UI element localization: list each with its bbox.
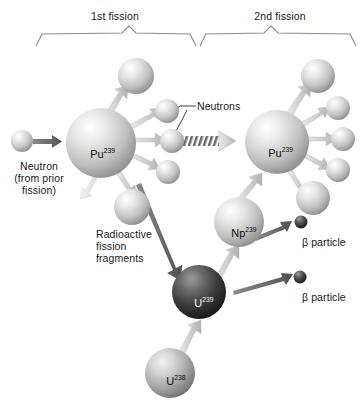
bracket-2nd-fission: [200, 26, 356, 46]
bracket-label-1st-fission: 1st fission: [80, 10, 150, 23]
nuclide-label-u238: U238: [154, 363, 186, 399]
arrow-beta-2: [233, 273, 293, 295]
label-fission-fragments-line3: fragments: [96, 252, 144, 265]
arrow-incoming-neutron: [33, 135, 62, 148]
nuclide-label-u239: U239: [182, 285, 214, 321]
sphere-beta-particle-1: [295, 216, 308, 229]
nuclide-mass-pu239-right: 239: [282, 146, 293, 153]
nuclide-mass-pu239-left: 239: [104, 147, 115, 154]
nuclide-element-u239: U: [194, 297, 202, 309]
sphere-neutron-right-2: [331, 127, 355, 151]
bracket-1st-fission: [36, 26, 196, 46]
nuclide-label-pu239-left: Pu239: [78, 136, 115, 172]
sphere-beta-particle-2: [294, 271, 307, 284]
sphere-neutron-left-2: [160, 129, 184, 153]
diagram-canvas: [0, 0, 363, 415]
bracket-label-2nd-fission: 2nd fission: [243, 10, 317, 23]
sphere-neutron-right-1: [326, 96, 350, 120]
sphere-fragment-left-bottom: [114, 189, 150, 225]
label-beta-particle-2: β particle: [302, 291, 346, 304]
fission-chain-diagram: 1st fission 2nd fission Neutrons Neutron…: [0, 0, 363, 415]
sphere-incoming-neutron: [11, 130, 33, 152]
label-neutrons: Neutrons: [197, 100, 240, 113]
sphere-fragment-right-bottom: [296, 181, 330, 215]
nuclide-element-pu239-left: Pu: [90, 148, 103, 160]
nuclide-element-u238: U: [166, 375, 174, 387]
sphere-fragment-left-top: [118, 58, 154, 94]
nuclide-label-pu239-right: Pu239: [256, 135, 293, 171]
sphere-neutron-right-3: [326, 158, 350, 182]
label-fission-fragments-line2: fission: [96, 240, 126, 253]
label-neutron-source-line1: Neutron: [0, 160, 78, 173]
nuclide-mass-u239: 239: [202, 296, 213, 303]
nuclide-element-pu239-right: Pu: [268, 147, 281, 159]
nuclide-mass-u238: 238: [174, 374, 185, 381]
label-neutron-source-line2: (from prior: [0, 172, 78, 185]
label-neutron-source-line3: fission): [0, 184, 78, 197]
nuclide-label-np239: Np239: [219, 215, 257, 251]
sphere-neutron-left-1: [155, 99, 179, 123]
nuclide-element-np239: Np: [231, 227, 245, 239]
sphere-neutron-left-3: [156, 160, 180, 184]
label-beta-particle-1: β particle: [302, 236, 346, 249]
nuclide-mass-np239: 239: [245, 226, 256, 233]
sphere-fragment-right-top: [301, 59, 335, 93]
label-fission-fragments-line1: Radioactive: [96, 228, 152, 241]
